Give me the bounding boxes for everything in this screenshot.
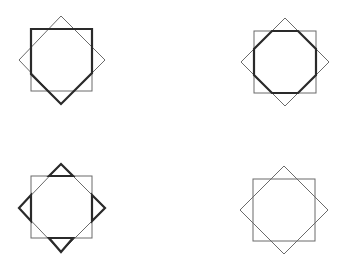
figure-bottom-left xyxy=(19,164,105,252)
highlight-triangle xyxy=(49,164,73,176)
highlight-triangle xyxy=(92,195,105,221)
highlight-pentagon xyxy=(31,29,92,104)
highlight-triangle xyxy=(49,238,73,252)
highlight-octagon xyxy=(254,31,316,93)
diagram-canvas xyxy=(0,0,342,262)
figure-top-right xyxy=(241,18,329,106)
figure-bottom-right xyxy=(240,166,328,254)
figure-top-left xyxy=(19,16,105,104)
highlight-triangle xyxy=(19,195,31,221)
